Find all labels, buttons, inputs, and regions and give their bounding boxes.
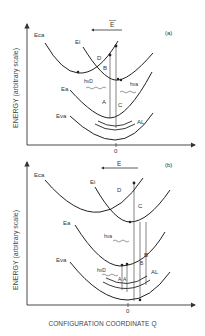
panel-a: 0 E (a) Eca Ei Ea Eva D B A C AL hνD — [27, 21, 195, 155]
label-B1-b: B — [144, 252, 148, 258]
panel-b: 0 E (b) Eca Ei Ea Eva D C B B A A AL hνa — [27, 160, 195, 314]
x-axis-label: CONFIGURATION COORDINATE Q — [0, 320, 205, 327]
label-ei-b: Ei — [90, 179, 95, 185]
label-C-b: C — [138, 203, 143, 209]
label-A1-b: A — [118, 276, 122, 282]
label-hva-b: hνa — [104, 233, 112, 239]
curve-eca-a — [45, 41, 118, 73]
label-ea-a: Ea — [61, 86, 69, 92]
panel-tag-a: (a) — [165, 30, 172, 36]
y-axis-label-a: ENERGY (arbitrary scale) — [12, 48, 19, 128]
label-hvD-b: hνD — [97, 267, 106, 273]
label-hva-a: hνa — [130, 81, 138, 87]
label-ea-b: Ea — [63, 220, 71, 226]
label-A2-b: A — [123, 276, 127, 282]
label-AL-a: AL — [137, 119, 145, 125]
label-B2-b: B — [140, 260, 144, 266]
curve-ei-a — [83, 47, 153, 80]
curve-eva-a — [70, 113, 153, 140]
label-A-a: A — [102, 99, 106, 105]
label-hvD-a: hνD — [84, 78, 93, 84]
label-eca-b: Eca — [34, 172, 45, 178]
origin-tick-b: 0 — [126, 308, 130, 314]
y-axis-label-b: ENERGY (arbitrary scale) — [12, 210, 19, 290]
panel-tag-b: (b) — [165, 162, 172, 168]
origin-tick-a: 0 — [114, 148, 118, 154]
label-eva-a: Eva — [56, 113, 67, 119]
label-AL-b: AL — [151, 269, 159, 275]
label-eva-b: Eva — [56, 257, 67, 263]
label-D-b: D — [117, 187, 122, 193]
field-label-b: E — [117, 160, 122, 167]
label-C-a: C — [118, 102, 123, 108]
label-ei-a: Ei — [75, 39, 80, 45]
label-D-a: D — [97, 55, 102, 61]
curve-ea-b — [75, 225, 165, 266]
label-eca-a: Eca — [34, 32, 45, 38]
label-B-a: B — [103, 65, 107, 71]
field-label-a: E — [110, 21, 115, 28]
